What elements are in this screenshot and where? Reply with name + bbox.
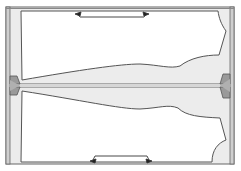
pattern-layout-diagram — [0, 0, 241, 171]
left-selvage — [6, 7, 10, 164]
right-selvage — [230, 7, 234, 164]
fold-band — [10, 84, 230, 87]
